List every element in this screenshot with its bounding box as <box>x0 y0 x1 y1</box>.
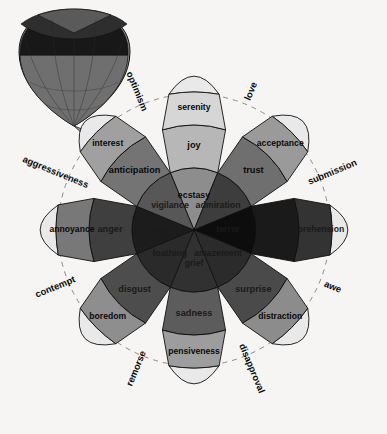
emotion-label-boredom: boredom <box>89 311 126 321</box>
emotion-label-grief: grief <box>184 258 203 268</box>
emotion-label-sadness: sadness <box>176 308 213 318</box>
emotion-label-serenity: serenity <box>178 102 211 112</box>
emotion-label-joy: joy <box>186 140 201 150</box>
emotion-label-rage: rage <box>151 224 170 234</box>
emotion-wheel-svg: ecstasyjoyserenityadmirationtrustaccepta… <box>0 0 387 434</box>
emotion-label-annoyance: annoyance <box>50 224 95 234</box>
emotion-label-interest: interest <box>92 138 123 148</box>
emotion-label-surprise: surprise <box>235 284 271 294</box>
emotion-label-apprehension: apprehension <box>288 224 344 234</box>
emotion-label-disgust: disgust <box>118 284 151 294</box>
emotion-label-amazement: amazement <box>194 248 242 258</box>
emotion-label-loathing: loathing <box>153 248 187 258</box>
emotion-label-trust: trust <box>243 165 263 175</box>
emotion-label-pensiveness: pensiveness <box>168 346 220 356</box>
emotion-label-fear: fear <box>270 224 287 234</box>
emotion-label-terror: terror <box>216 224 240 234</box>
emotion-label-vigilance: vigilance <box>151 200 189 210</box>
emotion-label-ecstasy: ecstasy <box>178 190 210 200</box>
plutchik-wheel-figure: ecstasyjoyserenityadmirationtrustaccepta… <box>0 0 387 434</box>
emotion-label-anger: anger <box>97 224 122 234</box>
emotion-label-acceptance: acceptance <box>257 138 304 148</box>
emotion-label-admiration: admiration <box>196 200 241 210</box>
emotion-label-distraction: distraction <box>258 311 302 321</box>
emotion-label-anticipation: anticipation <box>109 165 161 175</box>
